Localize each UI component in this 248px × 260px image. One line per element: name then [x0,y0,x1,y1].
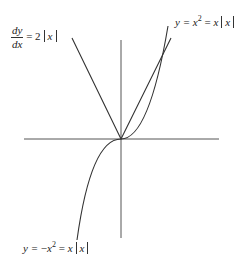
derivative-label: dy dx = 2x [11,24,60,51]
upper-curve-label: y = x2 = xx [175,14,237,28]
abs-bar [87,242,88,254]
lower-x2: x [68,242,73,254]
lower-lhs: y = [23,242,38,254]
fraction-numerator: dy [11,24,23,38]
abs-bar [76,242,77,254]
derivative-fraction: dy dx [11,24,23,51]
abs-bar [221,16,222,28]
upper-lhs: y = [175,16,190,28]
abs-bar [233,16,234,28]
upper-exp: 2 [198,14,202,23]
lower-curve-label: y = −x2 = xx [23,240,91,254]
abs-bar [44,30,45,42]
derivative-var: x [48,30,53,42]
upper-var: x [225,16,230,28]
lower-eq: = [59,242,65,254]
derivative-equals: = 2 [26,30,40,42]
upper-x2: x [213,16,218,28]
upper-parabola-curve [121,26,168,139]
lower-parabola-curve [77,139,121,240]
fraction-denominator: dx [11,38,23,51]
upper-eq: = [204,16,210,28]
lower-exp: 2 [52,240,56,249]
lower-var: x [80,242,85,254]
abs-bar [56,30,57,42]
